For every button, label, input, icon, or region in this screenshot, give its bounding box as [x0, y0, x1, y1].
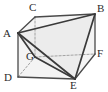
vertex-label-C: C [29, 2, 36, 13]
vertex-label-A: A [3, 28, 11, 39]
vertex-label-G: G [26, 51, 34, 62]
vertex-label-F: F [97, 48, 103, 59]
vertex-label-E: E [70, 80, 77, 91]
figure-canvas [0, 0, 108, 92]
vertex-label-B: B [97, 3, 104, 14]
vertex-label-D: D [4, 72, 12, 83]
geometry-figure: CBAGFDE [0, 0, 108, 92]
